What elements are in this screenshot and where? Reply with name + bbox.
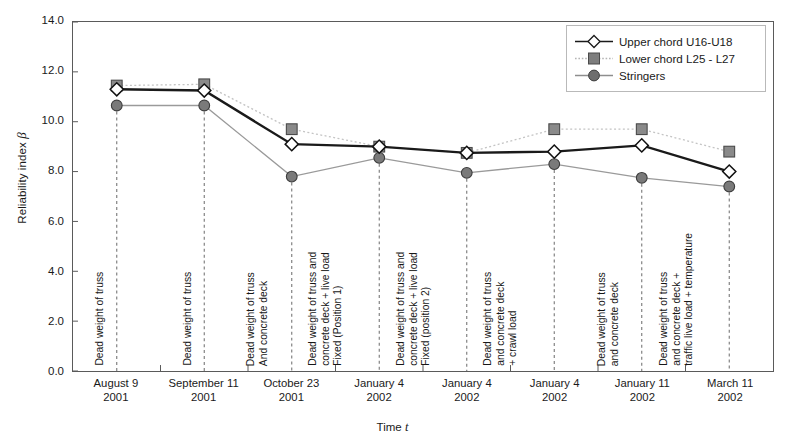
annotation-line: and concrete deck: [608, 272, 621, 366]
x-tick-line2: 2001: [160, 390, 248, 404]
plot-annotation: Dead weight of trussAnd concrete deck: [244, 272, 269, 366]
y-axis-tick-label: 8.0: [24, 166, 64, 178]
plot-annotation: Dead weight of truss: [182, 272, 195, 366]
x-axis-tick-label: January 112002: [599, 376, 687, 410]
y-axis-tick-label: 6.0: [24, 216, 64, 228]
x-axis-tick-label: August 92001: [72, 376, 160, 410]
annotation-line: Dead weight of truss and: [395, 252, 408, 366]
annotation-line: And concrete deck: [257, 272, 270, 366]
annotation-line: Dead weight of truss: [244, 272, 257, 366]
annotation-line: Dead weight of truss: [595, 272, 608, 366]
y-axis-tick-label: 2.0: [24, 316, 64, 328]
x-tick-line2: 2001: [72, 390, 160, 404]
x-axis-tick-label: September 112001: [160, 376, 248, 410]
annotation-line: Dead weight of truss: [658, 233, 671, 366]
annotation-line: Dead weight of truss: [483, 272, 496, 366]
y-axis-tick-label: 10.0: [24, 116, 64, 128]
x-tick-line2: 2002: [423, 390, 511, 404]
plot-annotation: Dead weight of truss andconcrete deck + …: [307, 252, 345, 366]
annotation-line: Dead weight of truss and: [307, 252, 320, 366]
legend: Upper chord U16-U18 Lower chord L25 - L2…: [566, 25, 766, 92]
y-axis-tick-labels: 0.02.04.06.08.010.012.014.0: [24, 0, 64, 439]
legend-item-lower-chord: Lower chord L25 - L27: [573, 50, 757, 67]
annotation-line: and concrete deck: [495, 272, 508, 366]
annotation-line: concrete deck + live load: [407, 252, 420, 366]
x-tick-line1: October 23: [263, 377, 319, 389]
x-tick-line1: September 11: [169, 377, 239, 389]
x-tick-line1: January 11: [615, 377, 670, 389]
x-axis-title: Time t: [0, 420, 785, 435]
x-axis-tick-label: January 42002: [423, 376, 511, 410]
y-axis-tick-label: 4.0: [24, 266, 64, 278]
y-axis-tick-label: 0.0: [24, 366, 64, 378]
legend-key-diamond-icon: [573, 33, 615, 50]
x-tick-line2: 2001: [248, 390, 336, 404]
legend-label-upper-chord: Upper chord U16-U18: [615, 35, 732, 48]
x-tick-line2: 2002: [599, 390, 687, 404]
annotation-line: + crawl load: [508, 272, 521, 366]
plot-annotation: Dead weight of truss andconcrete deck + …: [395, 252, 433, 366]
y-axis-tick-label: 12.0: [24, 65, 64, 77]
x-axis-tick-label: October 232001: [248, 376, 336, 410]
x-axis-tick-label: January 42002: [511, 376, 599, 410]
annotation-line: and concrete deck +: [671, 233, 684, 366]
annotation-line: Fixed (position 2): [420, 252, 433, 366]
legend-label-lower-chord: Lower chord L25 - L27: [615, 52, 735, 65]
annotation-line: Fixed (Position 1): [332, 252, 345, 366]
legend-key-circle-icon: [573, 67, 615, 84]
annotation-line: Dead weight of truss: [182, 272, 195, 366]
legend-key-square-icon: [573, 50, 615, 67]
x-tick-line1: March 11: [707, 377, 753, 389]
x-axis-tick-label: March 112002: [686, 376, 774, 410]
x-axis-tick-label: January 42002: [335, 376, 423, 410]
y-axis-tick-label: 14.0: [24, 15, 64, 27]
x-tick-line1: August 9: [94, 377, 139, 389]
x-tick-line2: 2002: [511, 390, 599, 404]
x-axis-tick-labels: August 92001September 112001October 2320…: [72, 376, 774, 410]
legend-item-stringers: Stringers: [573, 67, 757, 84]
annotation-line: traffic live load + temperature: [683, 233, 696, 366]
x-tick-line1: January 4: [530, 377, 580, 389]
legend-item-upper-chord: Upper chord U16-U18: [573, 33, 757, 50]
plot-annotation: Dead weight of trussand concrete deck +t…: [658, 233, 696, 366]
annotation-line: Dead weight of truss: [94, 272, 107, 366]
x-tick-line2: 2002: [335, 390, 423, 404]
x-tick-line2: 2002: [686, 390, 774, 404]
legend-label-stringers: Stringers: [615, 69, 665, 82]
plot-annotation: Dead weight of trussand concrete deck: [595, 272, 620, 366]
reliability-index-chart: Reliability index β 0.02.04.06.08.010.01…: [0, 0, 785, 439]
x-tick-line1: January 4: [442, 377, 492, 389]
plot-annotation: Dead weight of trussand concrete deck+ c…: [483, 272, 521, 366]
plot-annotation: Dead weight of truss: [94, 272, 107, 366]
annotation-line: concrete deck + live load: [320, 252, 333, 366]
x-tick-line1: January 4: [354, 377, 404, 389]
